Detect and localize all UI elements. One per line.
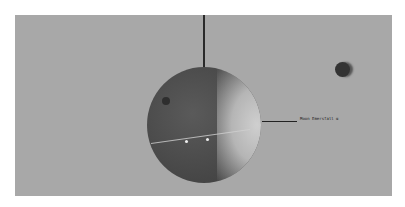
crater — [162, 97, 170, 105]
label-leader-line — [262, 121, 297, 122]
tether-line — [203, 15, 205, 68]
moon-label: Moon Emersfall α — [300, 116, 339, 121]
moon-sphere[interactable] — [147, 67, 261, 183]
3d-viewport[interactable]: Moon Emersfall α — [15, 15, 392, 196]
orbit-marker — [206, 138, 209, 141]
small-celestial-body[interactable] — [335, 62, 350, 77]
orbit-marker — [185, 140, 188, 143]
moon-lit-side — [217, 67, 261, 183]
